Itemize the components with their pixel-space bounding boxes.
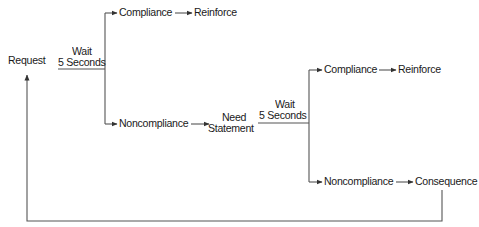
node-noncompliance-2: Noncompliance <box>324 176 393 187</box>
need-statement-line2: Statement <box>208 123 254 134</box>
node-compliance-2: Compliance <box>324 64 377 75</box>
node-compliance-1: Compliance <box>119 7 172 18</box>
feedback-loop-arrow <box>27 75 442 221</box>
node-reinforce-2: Reinforce <box>398 64 441 75</box>
node-request: Request <box>8 55 45 66</box>
node-noncompliance-1: Noncompliance <box>119 118 188 129</box>
node-reinforce-1: Reinforce <box>194 7 237 18</box>
wait2-label-line2: 5 Seconds <box>259 110 307 121</box>
behavior-flow-diagram: Request Wait 5 Seconds Compliance Reinfo… <box>0 0 479 227</box>
node-consequence: Consequence <box>415 176 477 187</box>
wait1-label-line2: 5 Seconds <box>58 57 106 68</box>
